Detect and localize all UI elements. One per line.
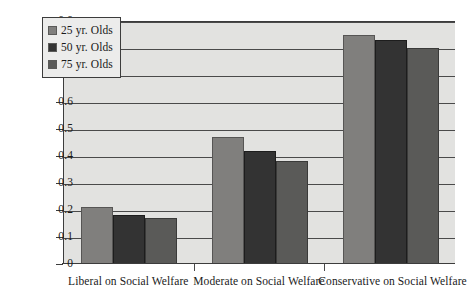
y-axis-tick-label: 0.6	[58, 96, 73, 108]
bar	[407, 48, 439, 264]
bar-group-container	[64, 22, 455, 264]
x-axis-tick	[324, 264, 325, 271]
bar	[81, 207, 113, 264]
bar	[212, 137, 244, 264]
y-axis-tick-label: 0.1	[58, 231, 73, 243]
y-axis-tick-label: 0	[67, 258, 73, 270]
x-axis-category-label: Moderate on Social Welfare	[188, 275, 331, 288]
legend-item: 25 yr. Olds	[48, 22, 113, 39]
x-axis-category-label: Liberal on Social Welfare	[57, 275, 200, 288]
y-axis-tick	[56, 264, 63, 265]
legend-swatch-icon	[48, 43, 57, 52]
y-axis-tick-label: 0.4	[58, 150, 73, 162]
x-axis-tick	[194, 264, 195, 271]
legend-item: 50 yr. Olds	[48, 39, 113, 56]
plot-area	[63, 21, 455, 264]
bar-chart: 0.90.80.70.60.50.40.30.20.10 Liberal on …	[0, 0, 468, 304]
y-axis-tick-label: 0.2	[58, 204, 73, 216]
bar	[343, 35, 375, 265]
x-axis-category-label: Conservative on Social Welfare	[318, 275, 461, 288]
legend: 25 yr. Olds50 yr. Olds75 yr. Olds	[42, 17, 121, 78]
legend-item-label: 25 yr. Olds	[61, 25, 113, 37]
bar	[145, 218, 177, 264]
legend-item-label: 50 yr. Olds	[61, 42, 113, 54]
bar	[375, 40, 407, 264]
legend-swatch-icon	[48, 60, 57, 69]
legend-item: 75 yr. Olds	[48, 56, 113, 73]
x-axis-line	[62, 263, 455, 264]
y-axis-tick-label: 0.5	[58, 123, 73, 135]
bar	[276, 161, 308, 264]
y-axis-tick-label: 0.3	[58, 177, 73, 189]
legend-swatch-icon	[48, 26, 57, 35]
bar	[113, 215, 145, 264]
bar	[244, 151, 276, 264]
legend-item-label: 75 yr. Olds	[61, 59, 113, 71]
